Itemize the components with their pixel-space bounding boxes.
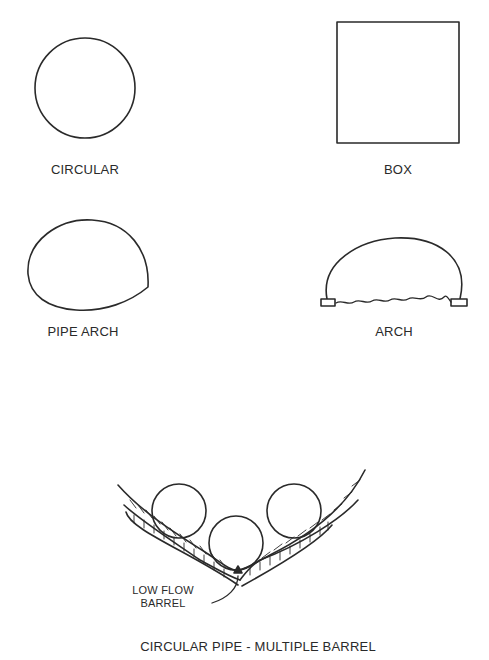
- box-shape: [337, 22, 459, 143]
- low-flow-callout: LOW FLOW BARREL: [132, 584, 194, 610]
- arch-shape: [321, 238, 467, 306]
- box-label: BOX: [384, 162, 412, 177]
- callout-line-1: LOW FLOW: [132, 584, 194, 597]
- callout-line-2: BARREL: [132, 597, 194, 610]
- pipe-arch-shape: [28, 220, 148, 310]
- arch-label: ARCH: [375, 324, 413, 339]
- pipe-arch-label: PIPE ARCH: [47, 324, 118, 339]
- circular-shape: [35, 38, 135, 138]
- multiple-barrel-label: CIRCULAR PIPE - MULTIPLE BARREL: [140, 639, 376, 654]
- circular-label: CIRCULAR: [51, 162, 119, 177]
